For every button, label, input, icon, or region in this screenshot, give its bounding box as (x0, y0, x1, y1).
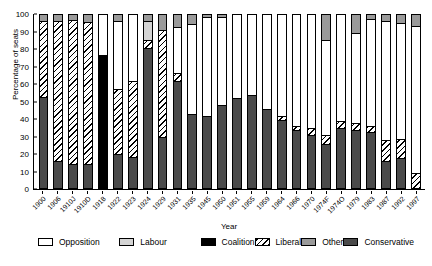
bar-slot (96, 14, 111, 189)
bar-segment-other (159, 15, 167, 31)
bar-segment-conservative (203, 117, 211, 188)
stacked-bar[interactable] (336, 14, 346, 189)
stacked-bar[interactable] (262, 14, 272, 189)
bar-segment-liberal (382, 141, 390, 162)
x-tick-mark (72, 191, 73, 194)
bar-slot (259, 14, 274, 189)
bar-segment-other (382, 15, 390, 22)
bar-group (34, 14, 425, 189)
bar-slot (378, 14, 393, 189)
bar-segment-opposition (412, 27, 420, 174)
stacked-bar[interactable] (321, 14, 331, 189)
bar-slot (244, 14, 259, 189)
legend-item-other[interactable]: Other (301, 234, 343, 249)
stacked-bar[interactable] (143, 14, 153, 189)
y-tick-label: 20 (20, 150, 34, 159)
bar-segment-conservative (322, 145, 330, 188)
bar-slot (230, 14, 245, 189)
legend-label: Labour (140, 237, 166, 247)
bar-slot (140, 14, 155, 189)
bar-segment-conservative (337, 129, 345, 188)
legend-label: Other (322, 237, 343, 247)
bar-segment-conservative (159, 138, 167, 188)
bar-slot (289, 14, 304, 189)
x-tick-slot: 1931 (169, 191, 184, 225)
bar-segment-conservative (293, 131, 301, 188)
stacked-bar[interactable] (202, 14, 212, 189)
legend-item-conservative[interactable]: Conservative (343, 234, 414, 249)
bar-slot (334, 14, 349, 189)
stacked-bar[interactable] (83, 14, 93, 189)
stacked-bar[interactable] (351, 14, 361, 189)
stacked-bar[interactable] (158, 14, 168, 189)
bar-segment-opposition (263, 15, 271, 110)
x-tick-slot: 1992 (393, 191, 408, 225)
stacked-bar[interactable] (396, 14, 406, 189)
legend-item-opposition[interactable]: Opposition (38, 234, 119, 249)
bar-slot (66, 14, 81, 189)
stacked-bar[interactable] (366, 14, 376, 189)
legend-label: Liberal (276, 237, 302, 247)
bar-segment-opposition (129, 15, 137, 82)
x-tick-slot: 1935 (184, 191, 199, 225)
stacked-bar[interactable] (292, 14, 302, 189)
y-tick-label: 80 (20, 45, 34, 54)
x-axis-ticks: 190019061910J1910D1918192219231924192919… (33, 191, 425, 225)
stacked-bar[interactable] (39, 14, 49, 189)
bar-slot (51, 14, 66, 189)
bar-segment-liberal (322, 136, 330, 145)
stacked-bar[interactable] (307, 14, 317, 189)
bar-segment-opposition (293, 15, 301, 127)
legend-item-coalition[interactable]: Coalition (201, 234, 255, 249)
stacked-bar[interactable] (173, 14, 183, 189)
legend-item-liberal[interactable]: Liberal (255, 234, 302, 249)
bar-slot (215, 14, 230, 189)
x-tick-slot: 1997 (408, 191, 423, 225)
bar-segment-liberal (69, 21, 77, 165)
stacked-bar[interactable] (381, 14, 391, 189)
stacked-bar[interactable] (217, 14, 227, 189)
stacked-bar[interactable] (247, 14, 257, 189)
bar-segment-opposition (322, 41, 330, 136)
bar-segment-conservative (233, 99, 241, 188)
legend-swatch-conservative (343, 238, 358, 246)
bar-segment-conservative (40, 98, 48, 188)
bar-slot (393, 14, 408, 189)
stacked-bar[interactable] (98, 14, 108, 189)
bar-segment-conservative (367, 133, 375, 188)
stacked-bar[interactable] (68, 14, 78, 189)
bar-slot (274, 14, 289, 189)
y-tick-label: 10 (20, 167, 34, 176)
bar-slot (185, 14, 200, 189)
bar-segment-liberal (412, 174, 420, 188)
bar-slot (200, 14, 215, 189)
stacked-bar[interactable] (277, 14, 287, 189)
bar-segment-conservative (218, 106, 226, 188)
stacked-bar[interactable] (232, 14, 242, 189)
bar-segment-other (352, 15, 360, 34)
bar-slot (304, 14, 319, 189)
bar-segment-liberal (174, 74, 182, 82)
bar-segment-labour (144, 22, 152, 41)
y-tick-label: 50 (20, 97, 34, 106)
bar-segment-conservative (308, 136, 316, 188)
bar-segment-liberal (397, 140, 405, 159)
stacked-bar[interactable] (128, 14, 138, 189)
stacked-bar[interactable] (411, 14, 421, 189)
bar-slot (155, 14, 170, 189)
bar-segment-other (144, 15, 152, 22)
x-tick-mark (296, 191, 297, 194)
bar-slot (110, 14, 125, 189)
legend-swatch-opposition (38, 238, 53, 246)
legend-label: Conservative (364, 237, 414, 247)
bar-segment-conservative (84, 165, 92, 188)
stacked-bar[interactable] (113, 14, 123, 189)
x-tick-mark (326, 191, 327, 194)
bar-segment-opposition (233, 16, 241, 99)
stacked-bar[interactable] (187, 14, 197, 189)
stacked-bar[interactable] (53, 14, 63, 189)
legend-item-labour[interactable]: Labour (119, 234, 200, 249)
bar-slot (349, 14, 364, 189)
bar-segment-liberal (114, 90, 122, 155)
y-axis-title: Percentage of seats (11, 5, 20, 125)
